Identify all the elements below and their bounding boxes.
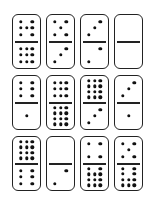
domino-divider: [15, 102, 38, 104]
pip-dot: [19, 175, 22, 178]
pip-dot: [121, 142, 124, 145]
domino-half-bottom: [13, 164, 40, 190]
domino-half-top: [81, 15, 108, 41]
pip-dot: [127, 87, 130, 90]
pip-dot: [19, 26, 22, 29]
pip-dot: [121, 167, 124, 170]
pip-dot: [65, 20, 68, 23]
pip-dot: [59, 26, 62, 29]
pip-dot: [87, 85, 90, 88]
pip-dot: [133, 167, 136, 170]
pip-dot: [133, 81, 136, 84]
pip-dot: [99, 47, 102, 50]
pip-dot: [19, 169, 22, 172]
pip-dot: [19, 182, 22, 185]
pip-dot: [65, 94, 68, 97]
pip-dot: [93, 178, 96, 181]
pip-dot: [87, 90, 90, 93]
domino-half-bottom: [13, 103, 40, 129]
pip-dot: [31, 33, 34, 36]
pip-dot: [87, 33, 90, 36]
pip-dot: [31, 146, 34, 149]
pip-dot: [31, 182, 34, 185]
pip-dot: [93, 184, 96, 187]
pip-dot: [19, 140, 22, 143]
pip-dot: [59, 94, 62, 97]
pip-dot: [25, 53, 28, 56]
pip-dot: [19, 47, 22, 50]
pip-dot: [121, 172, 124, 175]
pip-dot: [99, 90, 102, 93]
pip-dot: [93, 173, 96, 176]
pip-dot: [25, 151, 28, 154]
domino-half-top: [47, 15, 74, 41]
pip-dot: [31, 20, 34, 23]
pip-dot: [99, 155, 102, 158]
domino-tile: [114, 136, 143, 191]
pip-dot: [133, 142, 136, 145]
pip-dot: [31, 81, 34, 84]
pip-dot: [25, 47, 28, 50]
pip-dot: [31, 169, 34, 172]
pip-dot: [59, 112, 62, 115]
pip-dot: [19, 151, 22, 154]
pip-dot: [87, 79, 90, 82]
pip-dot: [87, 121, 90, 124]
pip-dot: [133, 184, 136, 187]
domino-half-top: [81, 137, 108, 163]
pip-dot: [53, 94, 56, 97]
pip-dot: [99, 178, 102, 181]
domino-divider: [15, 41, 38, 43]
pip-dot: [25, 146, 28, 149]
pip-dot: [53, 81, 56, 84]
pip-dot: [53, 60, 56, 63]
pip-dot: [87, 96, 90, 99]
pip-dot: [133, 178, 136, 181]
pip-dot: [59, 123, 62, 126]
pip-dot: [121, 94, 124, 97]
domino-half-top: [47, 137, 74, 163]
domino-divider: [49, 102, 72, 104]
pip-dot: [133, 172, 136, 175]
domino-tile: [80, 14, 109, 69]
pip-dot: [93, 26, 96, 29]
pip-dot: [31, 157, 34, 160]
domino-divider: [117, 102, 140, 104]
pip-dot: [59, 106, 62, 109]
pip-dot: [59, 117, 62, 120]
domino-divider: [49, 163, 72, 165]
pip-dot: [87, 173, 90, 176]
pip-dot: [93, 114, 96, 117]
domino-divider: [15, 163, 38, 165]
domino-tile: [114, 75, 143, 130]
pip-dot: [53, 20, 56, 23]
pip-dot: [31, 47, 34, 50]
domino-half-bottom: [115, 42, 142, 68]
domino-half-bottom: [47, 103, 74, 129]
pip-dot: [99, 142, 102, 145]
domino-half-bottom: [115, 103, 142, 129]
pip-dot: [121, 178, 124, 181]
pip-dot: [93, 90, 96, 93]
pip-dot: [19, 33, 22, 36]
pip-dot: [31, 60, 34, 63]
domino-half-top: [81, 76, 108, 102]
pip-dot: [65, 123, 68, 126]
pip-dot: [53, 106, 56, 109]
pip-dot: [19, 157, 22, 160]
pip-dot: [65, 87, 68, 90]
domino-half-bottom: [81, 42, 108, 68]
pip-dot: [25, 157, 28, 160]
pip-dot: [65, 33, 68, 36]
pip-dot: [19, 94, 22, 97]
pip-dot: [31, 175, 34, 178]
pip-dot: [19, 81, 22, 84]
pip-dot: [87, 155, 90, 158]
domino-grid: [12, 14, 143, 191]
pip-dot: [133, 155, 136, 158]
pip-dot: [53, 182, 56, 185]
domino-half-top: [115, 15, 142, 41]
domino-divider: [117, 41, 140, 43]
pip-dot: [87, 60, 90, 63]
domino-divider: [83, 163, 106, 165]
